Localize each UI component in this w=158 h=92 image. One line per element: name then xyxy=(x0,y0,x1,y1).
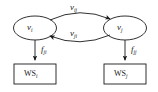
node-label-vi: vi xyxy=(27,23,33,32)
box-label-wsi: WSi xyxy=(24,70,38,78)
edge-label-vij: vij xyxy=(70,3,77,12)
edge-label-vji: vji xyxy=(70,29,77,38)
edge-vij-path xyxy=(50,13,110,20)
box-label-wsj: WSj xyxy=(114,70,128,78)
edge-label-fjj: fjj xyxy=(131,45,137,54)
node-vj-shape xyxy=(104,16,147,40)
node-label-vj: vj xyxy=(117,23,123,32)
edge-label-fji: fji xyxy=(41,45,47,54)
diagram-canvas: vi vj vij vji fji fjj WSi WSj xyxy=(0,0,158,92)
edge-vji-path xyxy=(50,35,110,42)
